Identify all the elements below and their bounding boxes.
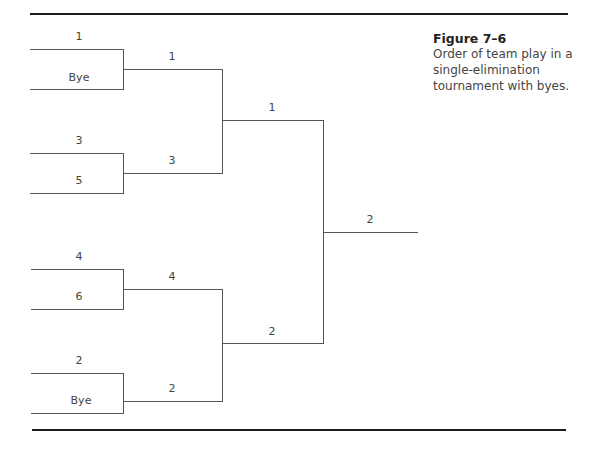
r2-line-3 [123, 289, 223, 290]
figure-caption: Figure 7–6 Order of team play in a singl… [433, 31, 593, 94]
r2-line-2 [123, 173, 223, 174]
caption-line-1: Order of team play in a [433, 46, 593, 62]
r3-label-1: 1 [242, 102, 302, 114]
r3-line-1 [222, 120, 324, 121]
final-line [323, 232, 418, 233]
r1-match1-top-line [30, 49, 124, 50]
r1-match1-bottom-line [30, 89, 124, 90]
r1-match3-top-line [31, 269, 124, 270]
r3-line-2 [222, 343, 324, 344]
final-label: 2 [340, 214, 400, 226]
top-rule [30, 13, 568, 15]
r2-label-3: 4 [142, 271, 202, 283]
r1-m4-bottom-label: Bye [51, 395, 111, 407]
r2-label-1: 1 [142, 51, 202, 63]
r1-m2-top-label: 3 [49, 135, 109, 147]
bottom-rule [32, 429, 566, 431]
r2-line-1 [123, 69, 223, 70]
caption-line-3: tournament with byes. [433, 78, 593, 94]
r1-m1-bottom-label: Bye [49, 72, 109, 84]
r1-m3-bottom-label: 6 [49, 291, 109, 303]
r1-match3-bottom-line [31, 309, 124, 310]
r2-line-4 [123, 401, 223, 402]
r2-connector-top [222, 69, 223, 174]
r1-match4-top-line [31, 373, 124, 374]
r2-connector-bottom [222, 289, 223, 402]
r1-match2-top-line [30, 153, 124, 154]
r1-match4-bottom-line [31, 413, 124, 414]
figure-label: Figure 7–6 [433, 31, 593, 46]
r2-label-2: 3 [142, 155, 202, 167]
r1-m2-bottom-label: 5 [49, 175, 109, 187]
caption-line-2: single-elimination [433, 62, 593, 78]
r1-match4-connector [123, 373, 124, 414]
r1-m4-top-label: 2 [49, 355, 109, 367]
r3-label-2: 2 [242, 326, 302, 338]
r1-m1-top-label: 1 [49, 31, 109, 43]
r2-label-4: 2 [142, 383, 202, 395]
r1-match2-bottom-line [30, 193, 124, 194]
r1-m3-top-label: 4 [49, 251, 109, 263]
